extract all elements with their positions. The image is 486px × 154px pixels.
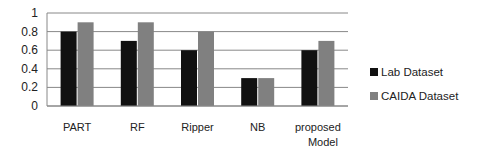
bars <box>61 22 335 106</box>
x-category-label: Ripper <box>181 121 214 133</box>
x-axis-categories: PARTRFRipperNBproposedModel <box>63 121 341 148</box>
legend-item-caida: CAIDA Dataset <box>370 88 458 104</box>
bar <box>138 22 154 106</box>
y-tick-label: 0.2 <box>21 80 38 94</box>
bar <box>121 41 137 106</box>
y-tick-label: 1 <box>31 6 38 20</box>
legend-label: Lab Dataset <box>381 66 443 78</box>
x-category-label: RF <box>130 121 145 133</box>
y-tick-label: 0.4 <box>21 62 38 76</box>
bar <box>78 22 94 106</box>
bar <box>258 78 274 106</box>
legend-label: CAIDA Dataset <box>381 90 458 102</box>
x-category-label: NB <box>250 121 265 133</box>
bar <box>318 41 334 106</box>
legend-swatch-caida <box>370 92 378 100</box>
bar <box>198 32 214 106</box>
bar <box>61 32 77 106</box>
legend-swatch-lab <box>370 68 378 76</box>
y-tick-label: 0 <box>31 99 38 113</box>
x-category-label: proposed <box>295 121 341 133</box>
bar <box>181 50 197 106</box>
bar <box>301 50 317 106</box>
bar <box>241 78 257 106</box>
y-tick-label: 0.8 <box>21 25 38 39</box>
x-category-label: PART <box>63 121 92 133</box>
x-category-label: Model <box>308 136 338 148</box>
legend: Lab Dataset CAIDA Dataset <box>370 64 458 112</box>
y-tick-label: 0.6 <box>21 43 38 57</box>
legend-item-lab: Lab Dataset <box>370 64 458 80</box>
y-axis-ticks: 00.20.40.60.81 <box>21 6 38 113</box>
